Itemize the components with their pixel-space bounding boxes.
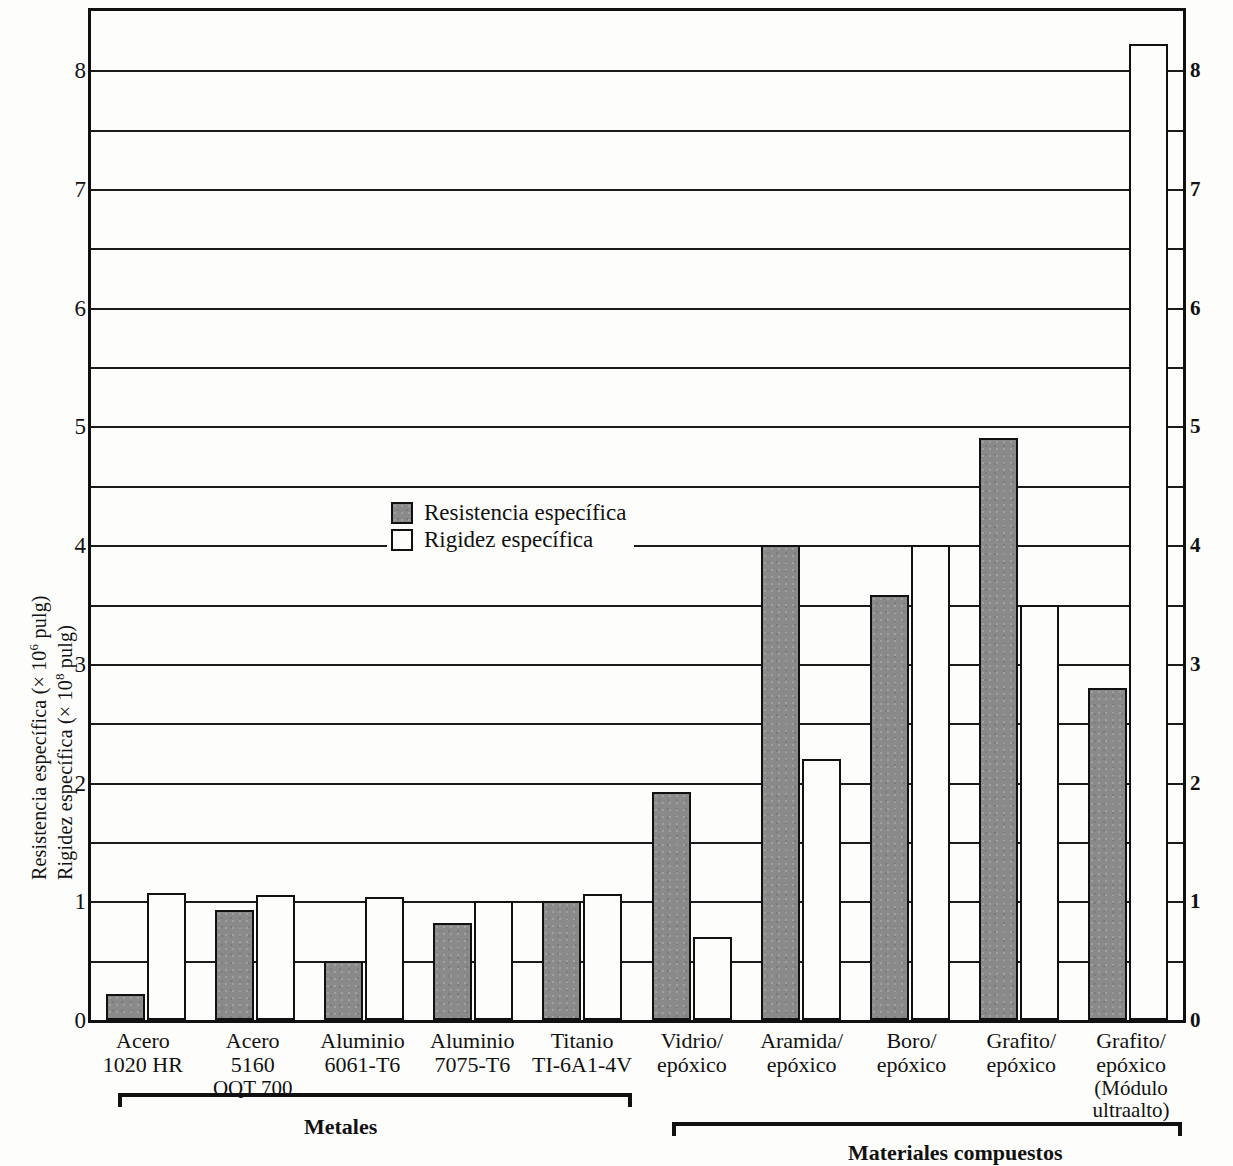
y-tick-label: 8 [52, 59, 86, 82]
exponent-6: 6 [26, 644, 41, 651]
x-axis-label: Grafito/epóxico(Móduloultraalto) [1076, 1026, 1186, 1126]
bar-group [1074, 11, 1183, 1020]
x-axis-label: Aluminio7075-T6 [417, 1026, 527, 1126]
x-axis-label: TitanioTI-6A1-4V [527, 1026, 637, 1126]
bar-resistencia[interactable] [433, 923, 472, 1020]
x-axis-label: Vidrio/epóxico [637, 1026, 747, 1126]
legend-label-resistencia: Resistencia específica [424, 501, 626, 524]
x-axis-label-line: Acero [88, 1029, 198, 1053]
y-tick-label: 1 [52, 890, 86, 913]
legend-label-rigidez: Rigidez específica [424, 528, 593, 551]
bar-group [637, 11, 746, 1020]
x-axis-label-line: TI-6A1-4V [527, 1053, 637, 1077]
y-tick-label: 2 [1190, 772, 1224, 793]
y-tick-label: 5 [52, 415, 86, 438]
x-axis-label-line: Acero [198, 1029, 308, 1053]
y-tick-label: 7 [52, 178, 86, 201]
bar-resistencia[interactable] [106, 994, 145, 1020]
x-axis-label-line: Aluminio [308, 1029, 418, 1053]
bar-rigidez[interactable] [256, 895, 295, 1020]
x-axis-label: Boro/epóxico [857, 1026, 967, 1126]
x-axis-label-line: epóxico [857, 1053, 967, 1077]
bar-rigidez[interactable] [474, 901, 513, 1020]
bar-rigidez[interactable] [693, 937, 732, 1020]
x-axis-label-line: Grafito/ [1076, 1029, 1186, 1053]
x-axis-label-line: Aramida/ [747, 1029, 857, 1053]
bar-rigidez[interactable] [583, 894, 622, 1020]
y-tick-label: 2 [52, 771, 86, 794]
bar-resistencia[interactable] [979, 438, 1018, 1020]
x-axis-label-line: epóxico [966, 1053, 1076, 1077]
x-axis-label: Grafito/epóxico [966, 1026, 1076, 1126]
y-axis-right-ticks: 012345678 [1190, 0, 1224, 1030]
legend-item-rigidez: Rigidez específica [391, 526, 626, 553]
y-tick-label: 8 [1190, 60, 1224, 81]
x-axis-label-line: Vidrio/ [637, 1029, 747, 1053]
x-axis-label: Acero1020 HR [88, 1026, 198, 1126]
x-axis-category-labels: Acero1020 HRAcero5160OQT 700Aluminio6061… [88, 1026, 1186, 1126]
bar-resistencia[interactable] [870, 595, 909, 1020]
y-tick-label: 4 [52, 534, 86, 557]
y-axis-left-ticks: 012345678 [52, 0, 86, 1030]
x-axis-label-line: (Módulo [1076, 1077, 1186, 1100]
bar-rigidez[interactable] [911, 545, 950, 1020]
y-tick-label: 3 [1190, 653, 1224, 674]
x-axis-label-line: Aluminio [417, 1029, 527, 1053]
bar-group [855, 11, 964, 1020]
y-tick-label: 6 [52, 296, 86, 319]
group-label-materiales-compuestos: Materiales compuestos [848, 1140, 1062, 1166]
x-axis-label-line: ultraalto) [1076, 1099, 1186, 1122]
y-tick-label: 0 [52, 1009, 86, 1032]
x-axis-label-line: Titanio [527, 1029, 637, 1053]
y-axis-title-strength: Resistencia específica (× 106 pulg) [26, 595, 51, 880]
y-tick-label: 1 [1190, 891, 1224, 912]
bar-rigidez[interactable] [802, 759, 841, 1020]
bar-resistencia[interactable] [215, 910, 254, 1020]
y-tick-label: 6 [1190, 297, 1224, 318]
x-axis-label-line: epóxico [747, 1053, 857, 1077]
legend-swatch-gray-square-icon [391, 502, 413, 524]
bar-groups [91, 11, 1183, 1020]
bar-resistencia[interactable] [542, 901, 581, 1020]
bar-rigidez[interactable] [1020, 605, 1059, 1020]
legend-item-resistencia: Resistencia específica [391, 499, 626, 526]
y-tick-label: 7 [1190, 179, 1224, 200]
bracket-metales [118, 1093, 632, 1107]
x-axis-label-line: Boro/ [857, 1029, 967, 1053]
x-axis-label-line: 6061-T6 [308, 1053, 418, 1077]
bar-group [746, 11, 855, 1020]
y-tick-label: 4 [1190, 535, 1224, 556]
bar-resistencia[interactable] [324, 961, 363, 1020]
x-axis-label-line: 5160 [198, 1053, 308, 1077]
bar-group [200, 11, 309, 1020]
legend-swatch-white-square-icon [391, 529, 413, 551]
bar-group [91, 11, 200, 1020]
x-axis-label-line: Grafito/ [966, 1029, 1076, 1053]
chart-legend: Resistencia específica Rigidez específic… [387, 496, 634, 557]
bar-resistencia[interactable] [652, 792, 691, 1020]
bar-rigidez[interactable] [147, 893, 186, 1020]
bracket-materiales-compuestos [672, 1122, 1182, 1136]
x-axis-label: Acero5160OQT 700 [198, 1026, 308, 1126]
x-axis-label-line: epóxico [637, 1053, 747, 1077]
bar-resistencia[interactable] [761, 545, 800, 1020]
bar-resistencia[interactable] [1088, 688, 1127, 1020]
bar-rigidez[interactable] [365, 897, 404, 1020]
y-tick-label: 5 [1190, 416, 1224, 437]
x-axis-label: Aramida/epóxico [747, 1026, 857, 1126]
x-axis-label: Aluminio6061-T6 [308, 1026, 418, 1126]
y-tick-label: 3 [52, 652, 86, 675]
bar-rigidez[interactable] [1129, 44, 1168, 1020]
x-axis-label-line: 1020 HR [88, 1053, 198, 1077]
x-axis-label-line: epóxico [1076, 1053, 1186, 1077]
group-label-metales: Metales [304, 1114, 377, 1140]
x-axis-label-line: 7075-T6 [417, 1053, 527, 1077]
y-tick-label: 0 [1190, 1010, 1224, 1031]
bar-group [965, 11, 1074, 1020]
plot-area: Resistencia específica Rigidez específic… [88, 8, 1186, 1023]
